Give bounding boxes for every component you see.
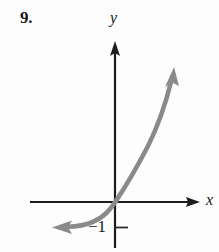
exercise-number-label: 9. xyxy=(20,9,32,26)
exponential-curve xyxy=(68,82,171,227)
y-axis-label: y xyxy=(110,10,117,26)
x-axis-label: x xyxy=(206,192,213,208)
tick-label-neg-one: −1 xyxy=(88,218,106,235)
x-axis-arrowhead xyxy=(186,197,200,207)
graph-canvas xyxy=(0,0,219,252)
exponential-graph-figure: 9. y x −1 xyxy=(0,0,219,252)
